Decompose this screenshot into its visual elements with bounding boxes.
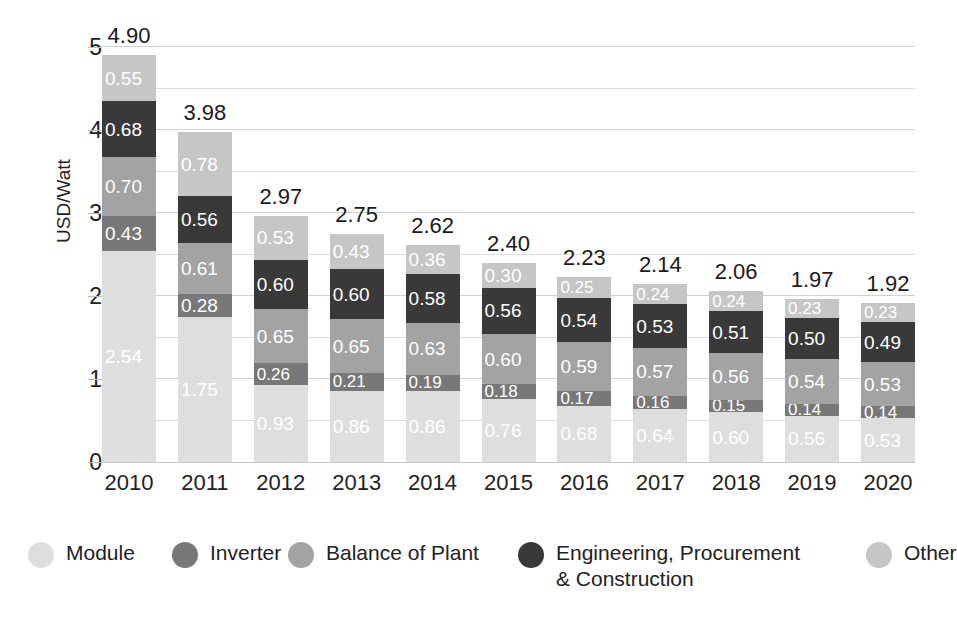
bar-segment[interactable]: 0.76 (482, 399, 536, 462)
bar-segment[interactable]: 0.68 (557, 406, 611, 462)
legend-swatch-icon (288, 542, 314, 568)
bar-segment[interactable]: 0.54 (557, 298, 611, 343)
legend-swatch-icon (518, 542, 544, 568)
bar-segment[interactable]: 0.60 (254, 260, 308, 310)
bar-group[interactable]: 0.860.190.630.580.362.62 (406, 47, 460, 462)
bar-segment-value: 0.70 (102, 177, 142, 196)
bar-segment[interactable]: 0.26 (254, 363, 308, 385)
x-axis-tick-label: 2015 (474, 472, 544, 494)
stacked-bar[interactable]: 0.530.140.530.490.23 (861, 303, 915, 462)
bar-segment-value: 0.53 (861, 375, 901, 394)
stacked-bar[interactable]: 0.760.180.600.560.30 (482, 263, 536, 462)
bar-group[interactable]: 1.750.280.610.560.783.98 (178, 47, 232, 462)
stacked-bar[interactable]: 2.540.430.700.680.55 (102, 55, 156, 462)
stacked-bar[interactable]: 0.560.140.540.500.23 (785, 299, 839, 463)
bar-segment[interactable]: 0.30 (482, 263, 536, 288)
bar-group[interactable]: 0.640.160.570.530.242.14 (633, 47, 687, 462)
bar-total-label: 3.98 (183, 102, 226, 124)
bar-segment[interactable]: 0.16 (633, 396, 687, 409)
bar-segment[interactable]: 0.86 (406, 391, 460, 462)
bar-segment[interactable]: 0.24 (633, 284, 687, 304)
bar-segment[interactable]: 0.61 (178, 243, 232, 294)
bar-segment[interactable]: 0.23 (861, 303, 915, 322)
bar-segment[interactable]: 0.53 (861, 362, 915, 406)
bar-segment[interactable]: 0.54 (785, 359, 839, 404)
bar-segment[interactable]: 0.86 (330, 391, 384, 462)
bar-segment[interactable]: 0.60 (482, 334, 536, 384)
bar-segment[interactable]: 0.21 (330, 373, 384, 390)
bar-segment[interactable]: 2.54 (102, 251, 156, 462)
bar-segment[interactable]: 0.17 (557, 391, 611, 405)
bar-segment-value: 0.51 (709, 323, 749, 342)
bar-segment[interactable]: 0.56 (709, 353, 763, 399)
stacked-bar[interactable]: 1.750.280.610.560.78 (178, 132, 232, 462)
bar-total-label: 2.14 (639, 254, 682, 276)
bar-segment[interactable]: 0.78 (178, 132, 232, 197)
bar-group[interactable]: 0.930.260.650.600.532.97 (254, 47, 308, 462)
bar-group[interactable]: 0.600.150.560.510.242.06 (709, 47, 763, 462)
bar-segment[interactable]: 0.55 (102, 55, 156, 101)
bar-segment[interactable]: 0.50 (785, 318, 839, 360)
bar-segment-value: 0.76 (482, 421, 522, 440)
bar-segment[interactable]: 0.49 (861, 322, 915, 363)
bar-segment[interactable]: 0.14 (861, 406, 915, 418)
bar-segment[interactable]: 0.60 (709, 412, 763, 462)
bar-segment[interactable]: 0.56 (178, 196, 232, 242)
stacked-bar[interactable]: 0.680.170.590.540.25 (557, 277, 611, 462)
bar-segment[interactable]: 0.64 (633, 409, 687, 462)
stacked-bar[interactable]: 0.930.260.650.600.53 (254, 216, 308, 463)
bar-segment[interactable]: 0.65 (254, 309, 308, 363)
bar-segment-value: 0.53 (861, 431, 901, 450)
bar-group[interactable]: 0.760.180.600.560.302.40 (482, 47, 536, 462)
bar-segment[interactable]: 0.43 (102, 216, 156, 252)
bar-segment[interactable]: 0.24 (709, 291, 763, 311)
stacked-bar[interactable]: 0.860.190.630.580.36 (406, 245, 460, 462)
bar-group[interactable]: 0.860.210.650.600.432.75 (330, 47, 384, 462)
bar-segment[interactable]: 0.93 (254, 385, 308, 462)
stacked-bar[interactable]: 0.600.150.560.510.24 (709, 291, 763, 462)
bar-segment[interactable]: 0.28 (178, 294, 232, 317)
bar-segment[interactable]: 0.53 (254, 216, 308, 260)
bar-segment[interactable]: 0.56 (482, 288, 536, 334)
bar-segment[interactable]: 0.25 (557, 277, 611, 298)
bar-group[interactable]: 0.680.170.590.540.252.23 (557, 47, 611, 462)
bar-segment[interactable]: 0.56 (785, 416, 839, 462)
legend-item[interactable]: Engineering, Procurement & Construction (518, 540, 800, 592)
bar-segment[interactable]: 0.53 (633, 304, 687, 348)
bar-segment[interactable]: 0.59 (557, 342, 611, 391)
stacked-bar[interactable]: 0.860.210.650.600.43 (330, 234, 384, 462)
bar-segment[interactable]: 0.15 (709, 400, 763, 412)
x-axis-tick-label: 2012 (246, 472, 316, 494)
bar-group[interactable]: 0.530.140.530.490.231.92 (861, 47, 915, 462)
x-axis-tick-label: 2014 (398, 472, 468, 494)
bar-segment[interactable]: 0.43 (330, 234, 384, 270)
bar-segment[interactable]: 0.53 (861, 418, 915, 462)
bar-segment[interactable]: 0.23 (785, 299, 839, 318)
bar-segment-value: 0.55 (102, 69, 142, 88)
bar-segment[interactable]: 0.51 (709, 311, 763, 353)
y-axis-tick-mark (88, 130, 102, 131)
bar-segment[interactable]: 1.75 (178, 317, 232, 462)
legend-item[interactable]: Inverter (172, 540, 281, 568)
bar-segment[interactable]: 0.36 (406, 245, 460, 275)
bar-segment[interactable]: 0.70 (102, 157, 156, 215)
bar-segment[interactable]: 0.14 (785, 404, 839, 416)
bar-segment[interactable]: 0.65 (330, 319, 384, 373)
legend-item[interactable]: Other (866, 540, 957, 568)
bar-group[interactable]: 2.540.430.700.680.554.90 (102, 47, 156, 462)
stacked-bar[interactable]: 0.640.160.570.530.24 (633, 284, 687, 462)
bar-segment[interactable]: 0.19 (406, 375, 460, 391)
bar-segment[interactable]: 0.57 (633, 348, 687, 395)
legend-item[interactable]: Module (28, 540, 135, 568)
y-axis-tick-mark (88, 462, 102, 463)
bar-segment[interactable]: 0.58 (406, 274, 460, 322)
bar-group[interactable]: 0.560.140.540.500.231.97 (785, 47, 839, 462)
bar-segment[interactable]: 0.60 (330, 269, 384, 319)
bar-segment[interactable]: 0.63 (406, 323, 460, 375)
bar-segment-value: 0.56 (709, 367, 749, 386)
legend-item[interactable]: Balance of Plant (288, 540, 479, 568)
bar-segment[interactable]: 0.18 (482, 384, 536, 399)
bar-total-label: 4.90 (108, 25, 151, 47)
bar-segment[interactable]: 0.68 (102, 101, 156, 157)
